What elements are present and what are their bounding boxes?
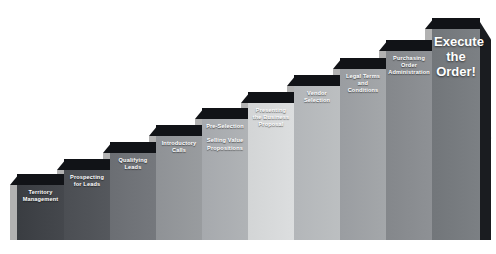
step-top-cap xyxy=(64,159,110,170)
step-label: Qualifying Leads xyxy=(110,157,156,171)
step-top-cap xyxy=(110,142,156,153)
step-top-cap xyxy=(432,18,480,29)
step-label: Execute the Order! xyxy=(432,34,480,79)
staircase-step-4: Introductory Calls xyxy=(156,125,202,240)
staircase-step-10: Execute the Order! xyxy=(432,18,480,240)
step-top-cap xyxy=(156,125,202,136)
diagram-canvas: Territory ManagementProspecting for Lead… xyxy=(0,0,496,254)
step-top-cap xyxy=(294,75,340,86)
staircase-step-8: Legal Terms and Conditions xyxy=(340,58,386,240)
step-top-cap xyxy=(17,174,64,185)
step-label: Introductory Calls xyxy=(156,140,202,154)
step-label: Pre-Selection Selling Value Propositions xyxy=(202,123,248,152)
step-top-cap xyxy=(340,58,386,69)
step-label: Purchasing Order Administration xyxy=(386,55,432,77)
step-label: Prospecting for Leads xyxy=(64,174,110,188)
staircase-step-2: Prospecting for Leads xyxy=(64,159,110,240)
staircase-step-9: Purchasing Order Administration xyxy=(386,40,432,240)
staircase-step-5: Pre-Selection Selling Value Propositions xyxy=(202,108,248,240)
step-top-cap xyxy=(386,40,432,51)
staircase-steps: Territory ManagementProspecting for Lead… xyxy=(0,0,496,254)
step-top-cap xyxy=(202,108,248,119)
step-body xyxy=(386,48,432,240)
step-label: Presenting the Business Proposal xyxy=(248,107,294,129)
step-label: Legal Terms and Conditions xyxy=(340,73,386,95)
step-label: Territory Management xyxy=(17,189,64,203)
staircase-step-7: Vendor Selection xyxy=(294,75,340,240)
staircase-step-6: Presenting the Business Proposal xyxy=(248,92,294,240)
step-label: Vendor Selection xyxy=(294,90,340,104)
step-left-bevel xyxy=(10,185,17,240)
staircase-step-1: Territory Management xyxy=(17,174,64,240)
staircase-step-3: Qualifying Leads xyxy=(110,142,156,240)
step-body xyxy=(294,83,340,240)
step-right-face xyxy=(480,22,491,240)
step-top-cap xyxy=(248,92,294,103)
